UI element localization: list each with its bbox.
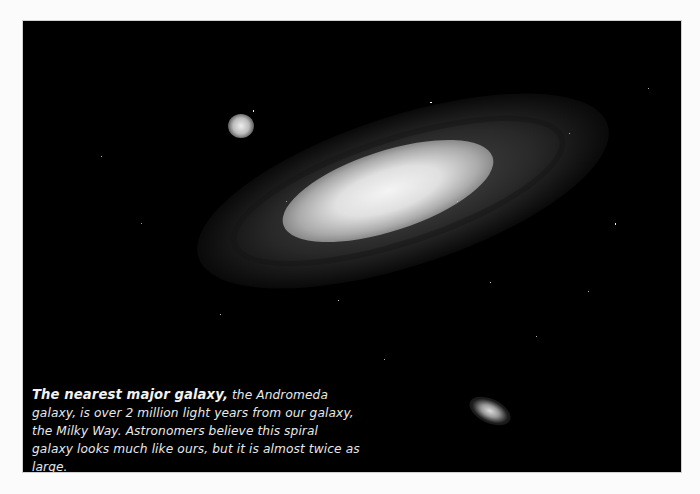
satellite-galaxy-m32 — [228, 114, 254, 138]
photo-caption: The nearest major galaxy, the Andromeda … — [32, 386, 362, 472]
andromeda-galaxy-photo: The nearest major galaxy, the Andromeda … — [23, 21, 681, 472]
caption-lead: The nearest major galaxy, — [32, 387, 228, 402]
